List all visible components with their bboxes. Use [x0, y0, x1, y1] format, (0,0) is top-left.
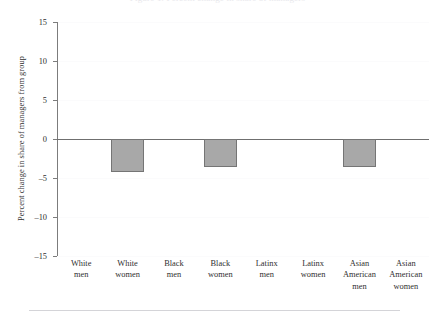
x-axis-label-line: Asian — [337, 258, 381, 269]
footer-rule — [29, 310, 400, 311]
bar[interactable] — [111, 139, 144, 172]
y-tick-mark: –5 — [53, 178, 57, 179]
y-tick-mark: 10 — [53, 61, 57, 62]
x-axis-label: Whitemen — [58, 258, 104, 304]
bar-series — [58, 22, 429, 256]
x-axis-label-line: White — [105, 258, 149, 269]
y-axis-title: Percent change in share of managers from… — [17, 14, 26, 264]
x-axis-label-line: women — [291, 269, 335, 280]
x-axis-label: Blackwomen — [197, 258, 243, 304]
y-tick-label: 0 — [43, 135, 47, 144]
y-tick-mark: –15 — [53, 256, 57, 257]
y-tick-label: –5 — [39, 174, 47, 183]
x-axis-label-line: American — [384, 269, 428, 280]
x-axis-label-line: men — [152, 269, 196, 280]
bar[interactable] — [204, 139, 237, 167]
x-axis-label-line: Latinx — [245, 258, 289, 269]
y-tick-mark: 5 — [53, 100, 57, 101]
x-axis-label: Whitewomen — [104, 258, 150, 304]
x-axis-label-line: Asian — [384, 258, 428, 269]
y-tick-label: –10 — [34, 213, 47, 222]
x-axis-label: AsianAmericanmen — [336, 258, 382, 304]
y-tick-label: –15 — [34, 252, 47, 261]
x-axis-label-line: women — [105, 269, 149, 280]
x-axis-label-line: men — [245, 269, 289, 280]
y-gridline — [58, 256, 429, 257]
bar[interactable] — [343, 139, 376, 167]
x-axis-label-line: American — [337, 269, 381, 280]
x-axis-label: AsianAmericanwomen — [383, 258, 429, 304]
x-axis-label-line: Latinx — [291, 258, 335, 269]
plot-area: 151050–5–10–15 — [57, 22, 429, 256]
x-axis-label-line: women — [384, 281, 428, 292]
x-axis-label: Latinxwomen — [290, 258, 336, 304]
y-tick-mark: –10 — [53, 217, 57, 218]
x-axis-label-line: White — [59, 258, 103, 269]
y-tick-label: 10 — [39, 57, 47, 66]
x-axis-label-line: men — [59, 269, 103, 280]
bar-chart: Percent change in share of managers from… — [0, 0, 435, 317]
x-axis-label: Blackmen — [151, 258, 197, 304]
y-tick-label: 15 — [39, 18, 47, 27]
y-tick-label: 5 — [43, 96, 47, 105]
y-tick-mark: 15 — [53, 22, 57, 23]
x-axis-label: Latinxmen — [244, 258, 290, 304]
x-axis-label-line: Black — [198, 258, 242, 269]
x-axis-label-line: Black — [152, 258, 196, 269]
x-axis-label-line: men — [337, 281, 381, 292]
x-axis-label-line: women — [198, 269, 242, 280]
x-axis-labels: WhitemenWhitewomenBlackmenBlackwomenLati… — [58, 258, 429, 304]
